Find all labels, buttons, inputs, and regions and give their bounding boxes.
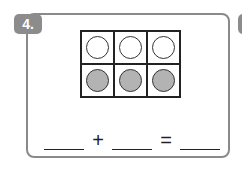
frame-cell — [81, 31, 114, 64]
answer-blank-3[interactable] — [180, 131, 220, 150]
equation: + = — [44, 130, 220, 150]
counter-circle — [152, 69, 175, 92]
frame-cell — [147, 31, 180, 64]
counter-circle — [119, 69, 142, 92]
plus-sign: + — [88, 130, 108, 150]
answer-blank-2[interactable] — [112, 131, 152, 150]
counter-circle — [86, 69, 109, 92]
counter-circle — [152, 36, 175, 59]
frame-cell — [147, 64, 180, 97]
frame-cell — [81, 64, 114, 97]
counter-circle — [119, 36, 142, 59]
counter-circle — [86, 36, 109, 59]
equals-sign: = — [156, 130, 176, 150]
counter-frame — [80, 30, 181, 98]
answer-blank-1[interactable] — [44, 131, 84, 150]
next-problem-badge — [238, 14, 242, 34]
frame-cell — [114, 31, 147, 64]
problem-number-badge: 4. — [14, 14, 42, 34]
frame-cell — [114, 64, 147, 97]
